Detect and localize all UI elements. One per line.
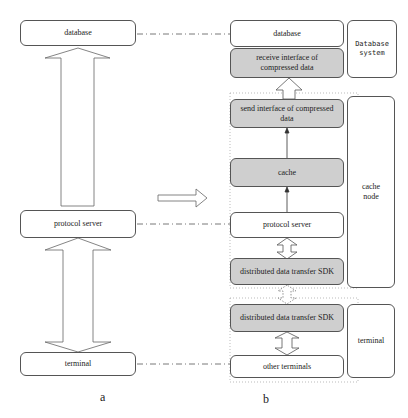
receive-interface-label: receive interface of compressed data <box>239 53 335 73</box>
a-protocol-server-box: protocol server <box>20 210 136 238</box>
cache-box: cache <box>230 158 344 187</box>
a-protocol-server-label: protocol server <box>54 219 102 229</box>
caption-b: b <box>263 392 269 407</box>
b-database-box: database <box>230 20 344 47</box>
receive-interface-box: receive interface of compressed data <box>230 48 344 78</box>
a-database-box: database <box>20 20 136 46</box>
sdk-server-label: distributed data transfer SDK <box>240 267 334 277</box>
a-database-label: database <box>64 28 92 38</box>
cache-node-label: cache node <box>356 182 386 202</box>
caption-a: a <box>100 390 105 405</box>
small-double-arrow-icon <box>277 238 297 259</box>
a-terminal-box: terminal <box>20 352 136 376</box>
a-terminal-label: terminal <box>65 359 92 369</box>
other-terminals-label: other terminals <box>263 362 311 372</box>
double-arrow-protocol-terminal <box>45 238 111 352</box>
b-protocol-server-box: protocol server <box>230 212 344 238</box>
sdk-terminal-label: distributed data transfer SDK <box>240 313 334 323</box>
group-terminal: terminal <box>347 304 395 378</box>
send-interface-label: send interface of compressed data <box>235 104 339 124</box>
hollow-double-arrow-icon <box>275 332 299 355</box>
b-protocol-server-label: protocol server <box>263 220 311 230</box>
send-interface-box: send interface of compressed data <box>230 99 344 128</box>
cache-label: cache <box>278 168 296 178</box>
double-arrow-db-protocol <box>45 48 110 206</box>
b-database-label: database <box>273 29 301 39</box>
database-system-label: Database system <box>348 40 396 58</box>
sdk-terminal-box: distributed data transfer SDK <box>230 304 344 332</box>
group-cache-node: cache node <box>347 96 395 288</box>
transform-arrow-icon <box>158 189 207 207</box>
hollow-up-arrow-icon <box>276 78 302 99</box>
sdk-server-box: distributed data transfer SDK <box>230 258 344 285</box>
terminal-group-label: terminal <box>358 336 385 346</box>
other-terminals-box: other terminals <box>230 355 344 378</box>
group-database-system: Database system <box>347 20 397 78</box>
